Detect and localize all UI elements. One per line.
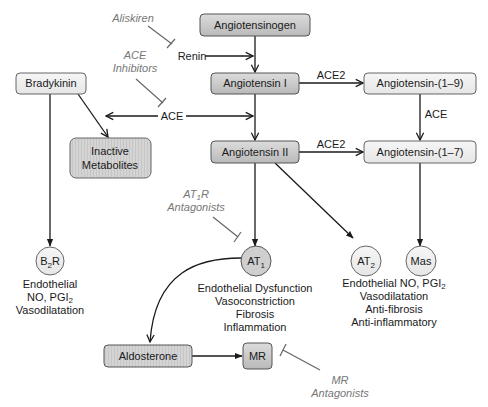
drug-ace-inhibitors: ACE Inhibitors xyxy=(113,49,158,74)
svg-text:Angiotensin-(1–7): Angiotensin-(1–7) xyxy=(377,146,464,158)
svg-text:Vasodilatation: Vasodilatation xyxy=(16,304,84,316)
enzyme-ace: ACE xyxy=(161,110,184,122)
svg-text:Metabolites: Metabolites xyxy=(82,159,139,171)
svg-text:Inflammation: Inflammation xyxy=(224,321,287,333)
svg-text:Angiotensin I: Angiotensin I xyxy=(223,77,287,89)
svg-text:Angiotensin II: Angiotensin II xyxy=(222,146,289,158)
svg-text:ACE: ACE xyxy=(123,49,147,61)
label-ace-right: ACE xyxy=(425,108,448,120)
svg-text:Mas: Mas xyxy=(411,255,432,267)
receptor-b2r: B2R xyxy=(36,247,64,275)
inhibitor-aliskiren xyxy=(148,26,175,48)
node-angiotensin-1-7: Angiotensin-(1–7) xyxy=(364,141,476,163)
node-angiotensin-i: Angiotensin I xyxy=(211,73,299,94)
enzyme-renin: Renin xyxy=(178,50,207,62)
svg-text:Fibrosis: Fibrosis xyxy=(236,308,275,320)
svg-text:Angiotensinogen: Angiotensinogen xyxy=(214,19,296,31)
svg-text:Vasodilatation: Vasodilatation xyxy=(360,290,428,302)
node-angiotensin-ii: Angiotensin II xyxy=(211,141,299,163)
effects-b2r: Endothelial NO, PGI2 Vasodilatation xyxy=(16,278,84,316)
svg-text:MR: MR xyxy=(331,374,348,386)
svg-text:NO, PGI2: NO, PGI2 xyxy=(27,291,74,305)
inhibitor-at1r-antagonists xyxy=(213,217,241,242)
edge-bradykinin-to-inactive xyxy=(78,94,108,137)
receptor-mas: Mas xyxy=(406,246,436,276)
effects-at2-mas: Endothelial NO, PGI2 Vasodilatation Anti… xyxy=(342,277,446,328)
svg-text:Inhibitors: Inhibitors xyxy=(113,62,158,74)
label-ace2-bottom: ACE2 xyxy=(317,138,346,150)
svg-text:Aldosterone: Aldosterone xyxy=(119,350,178,362)
svg-text:Endothelial NO, PGI2: Endothelial NO, PGI2 xyxy=(342,277,446,291)
svg-text:Bradykinin: Bradykinin xyxy=(25,77,76,89)
drug-mr-antagonists: MR Antagonists xyxy=(310,374,369,399)
svg-text:MR: MR xyxy=(249,350,266,362)
label-ace2-top: ACE2 xyxy=(317,69,346,81)
svg-text:Endothelial Dysfunction: Endothelial Dysfunction xyxy=(198,282,313,294)
node-inactive-metabolites: Inactive Metabolites xyxy=(70,138,151,178)
effects-at1: Endothelial Dysfunction Vasoconstriction… xyxy=(198,282,313,333)
node-bradykinin: Bradykinin xyxy=(16,73,86,94)
ras-pathway-diagram: Angiotensinogen Renin Angiotensin I Angi… xyxy=(0,0,488,407)
drug-aliskiren: Aliskiren xyxy=(111,12,154,24)
inhibitor-mr-antagonists xyxy=(280,344,320,370)
svg-text:AT1R: AT1R xyxy=(182,188,209,202)
svg-text:Antagonists: Antagonists xyxy=(310,387,369,399)
svg-text:Anti-inflammatory: Anti-inflammatory xyxy=(351,316,437,328)
receptor-at2: AT2 xyxy=(351,246,381,276)
node-angiotensin-1-9: Angiotensin-(1–9) xyxy=(364,73,476,94)
drug-at1r-antagonists: AT1R Antagonists xyxy=(166,188,225,213)
svg-text:Anti-fibrosis: Anti-fibrosis xyxy=(365,303,423,315)
node-angiotensinogen: Angiotensinogen xyxy=(200,14,310,36)
inhibitor-ace-inhibitors xyxy=(136,79,166,107)
svg-text:Inactive: Inactive xyxy=(91,145,129,157)
node-mr: MR xyxy=(243,343,272,369)
svg-text:Vasoconstriction: Vasoconstriction xyxy=(215,295,295,307)
svg-text:Angiotensin-(1–9): Angiotensin-(1–9) xyxy=(377,77,464,89)
edge-ang-ii-to-at2 xyxy=(275,163,353,238)
receptor-at1: AT1 xyxy=(241,246,271,276)
node-aldosterone: Aldosterone xyxy=(104,345,192,367)
svg-text:Endothelial: Endothelial xyxy=(23,278,77,290)
svg-text:Antagonists: Antagonists xyxy=(166,201,225,213)
